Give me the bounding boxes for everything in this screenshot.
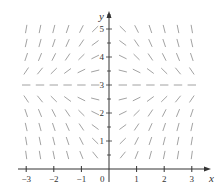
slope-segment bbox=[134, 110, 140, 116]
y-axis-arrow-icon bbox=[107, 11, 112, 18]
slope-segment bbox=[163, 151, 165, 159]
slope-segment bbox=[191, 123, 193, 131]
slope-segment bbox=[52, 109, 56, 116]
slope-segment bbox=[163, 137, 165, 145]
slope-segment bbox=[92, 26, 98, 32]
slope-segment bbox=[64, 69, 71, 74]
slope-segment bbox=[119, 70, 127, 72]
slope-segment bbox=[39, 151, 40, 159]
x-tick-label: −3 bbox=[21, 174, 31, 184]
slope-segment bbox=[93, 152, 98, 159]
slope-segment bbox=[148, 110, 153, 117]
slope-segment bbox=[91, 55, 99, 59]
slope-segment bbox=[80, 137, 84, 144]
slope-segment bbox=[134, 40, 139, 47]
x-axis-arrow-icon bbox=[204, 167, 211, 172]
slope-segment bbox=[191, 25, 192, 33]
slope-segment bbox=[120, 152, 125, 159]
slope-segment bbox=[92, 125, 99, 130]
slope-segment bbox=[53, 151, 55, 159]
slope-segment bbox=[149, 137, 152, 145]
slope-segment bbox=[149, 151, 151, 159]
slope-segment bbox=[78, 110, 84, 116]
slope-segment bbox=[175, 68, 180, 75]
slope-segment bbox=[80, 151, 83, 159]
slope-segment bbox=[79, 124, 84, 131]
slope-segment bbox=[176, 53, 179, 61]
slope-field-plot: −3−2−112312345 x y 0 bbox=[0, 0, 219, 192]
x-tick-label: 3 bbox=[190, 174, 195, 184]
slope-segment bbox=[92, 138, 98, 144]
slope-segment bbox=[133, 69, 141, 73]
slope-segment bbox=[177, 39, 179, 47]
slope-segment bbox=[91, 111, 99, 115]
y-axis-label: y bbox=[98, 10, 104, 22]
y-tick-label: 3 bbox=[100, 80, 105, 90]
slope-segment bbox=[52, 123, 55, 131]
slope-segment bbox=[147, 97, 154, 102]
y-tick-label: 1 bbox=[100, 136, 105, 146]
slope-segment bbox=[53, 137, 55, 145]
slope-segment bbox=[92, 41, 99, 46]
slope-segment bbox=[163, 25, 165, 33]
x-tick-label: 2 bbox=[162, 174, 167, 184]
slope-segment bbox=[163, 39, 166, 47]
slope-segment bbox=[190, 53, 193, 61]
slope-segment bbox=[119, 55, 127, 59]
slope-segment bbox=[25, 109, 28, 117]
slope-segment bbox=[176, 109, 179, 117]
slope-segment bbox=[134, 124, 139, 131]
slope-segment bbox=[119, 111, 127, 115]
slope-segment bbox=[189, 68, 194, 75]
slope-segment bbox=[149, 25, 152, 33]
slope-segment bbox=[149, 39, 152, 47]
slope-segment bbox=[119, 98, 127, 100]
slope-segment bbox=[38, 109, 41, 117]
y-tick-label: 4 bbox=[100, 52, 105, 62]
slope-segment bbox=[24, 96, 29, 103]
axis-ticks: −3−2−112312345 bbox=[21, 15, 194, 184]
slope-segment bbox=[37, 68, 42, 75]
slope-segment bbox=[65, 110, 70, 117]
slope-segment bbox=[80, 25, 84, 32]
axes bbox=[18, 11, 211, 182]
y-tick-label: 5 bbox=[100, 24, 105, 34]
slope-segment bbox=[24, 68, 29, 75]
slope-segment bbox=[51, 96, 57, 102]
slope-segment bbox=[177, 151, 178, 159]
slope-segment bbox=[52, 39, 55, 47]
slope-segment bbox=[191, 137, 192, 145]
slope-segment bbox=[161, 96, 167, 102]
slope-segment bbox=[161, 68, 167, 74]
slope-segment bbox=[148, 54, 153, 61]
slope-segment bbox=[134, 54, 140, 60]
slope-segment bbox=[91, 98, 99, 100]
slope-segment bbox=[39, 39, 41, 47]
slope-segment bbox=[78, 54, 84, 60]
slope-segment bbox=[191, 39, 193, 47]
slope-segment bbox=[67, 151, 69, 159]
slope-segment bbox=[66, 25, 69, 33]
slope-segment bbox=[133, 97, 141, 101]
slope-segment bbox=[190, 109, 193, 117]
x-tick-label: 1 bbox=[134, 174, 139, 184]
slope-segment bbox=[163, 123, 166, 131]
slope-segment bbox=[135, 25, 139, 32]
slope-segment bbox=[79, 40, 84, 47]
y-tick-label: 2 bbox=[100, 108, 105, 118]
slope-segment bbox=[177, 137, 179, 145]
slope-segment bbox=[39, 25, 41, 33]
slope-segment bbox=[39, 137, 41, 145]
slope-segment bbox=[177, 123, 179, 131]
slope-segment bbox=[25, 39, 27, 47]
slope-segment bbox=[162, 109, 166, 116]
slope-segment bbox=[25, 25, 26, 33]
slope-segment bbox=[64, 97, 71, 102]
slope-segment bbox=[53, 25, 55, 33]
slope-segment bbox=[119, 125, 126, 130]
slope-segment bbox=[91, 70, 99, 72]
slope-segment bbox=[120, 26, 126, 32]
slope-segment bbox=[25, 123, 27, 131]
slope-segment bbox=[135, 151, 138, 159]
slope-segment bbox=[26, 151, 27, 159]
